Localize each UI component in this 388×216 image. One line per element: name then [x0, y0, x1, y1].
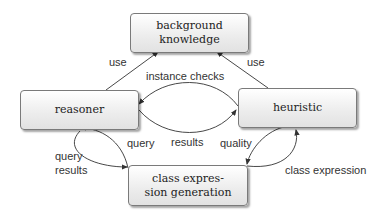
node-class-expression-generation: class expres- sion generation [128, 165, 248, 206]
node-heuristic-label: heuristic [273, 101, 322, 115]
edge-label-use-right: use [247, 56, 265, 68]
edge-label-query-results-1: query [55, 150, 83, 162]
node-heuristic: heuristic [238, 88, 357, 128]
edge-results [139, 110, 236, 133]
edge-quality [247, 126, 288, 164]
edge-label-query-results-2: results [55, 164, 87, 176]
node-background-knowledge-label: background knowledge [131, 19, 248, 47]
edge-label-results: results [171, 136, 203, 148]
edge-query [81, 128, 128, 168]
node-class-expression-generation-label: class expres- sion generation [145, 172, 232, 200]
edge-label-class-expression: class expression [285, 164, 366, 176]
edge-label-query: query [127, 137, 155, 149]
edge-label-quality: quality [220, 137, 252, 149]
node-background-knowledge: background knowledge [130, 13, 249, 53]
node-reasoner: reasoner [20, 90, 139, 130]
edge-instance-checks [139, 82, 238, 106]
node-reasoner-label: reasoner [55, 103, 104, 117]
edge-label-instance-checks: instance checks [146, 70, 224, 82]
edge-label-use-left: use [109, 56, 127, 68]
